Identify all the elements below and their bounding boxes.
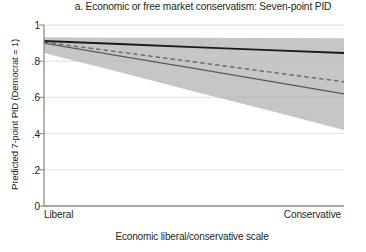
y-tick-label-0-2: .2	[16, 164, 40, 175]
y-tick-label-0-8: .8	[16, 56, 40, 67]
chart-figure: a. Economic or free market conservatism:…	[0, 0, 366, 252]
y-tick-label-0-6: .6	[16, 92, 40, 103]
chart-title: a. Economic or free market conservatism:…	[46, 1, 360, 12]
y-tick-label-1: 1	[16, 20, 40, 31]
x-axis-title: Economic liberal/conservative scale	[44, 231, 340, 242]
x-tick-label-conservative: Conservative	[284, 209, 341, 220]
y-tick-label-0: 0	[16, 201, 40, 212]
x-tick-label-liberal: Liberal	[44, 209, 73, 220]
y-tick-label-0-4: .4	[16, 128, 40, 139]
y-axis-tick-labels: 0 .2 .4 .6 .8 1	[12, 0, 40, 252]
